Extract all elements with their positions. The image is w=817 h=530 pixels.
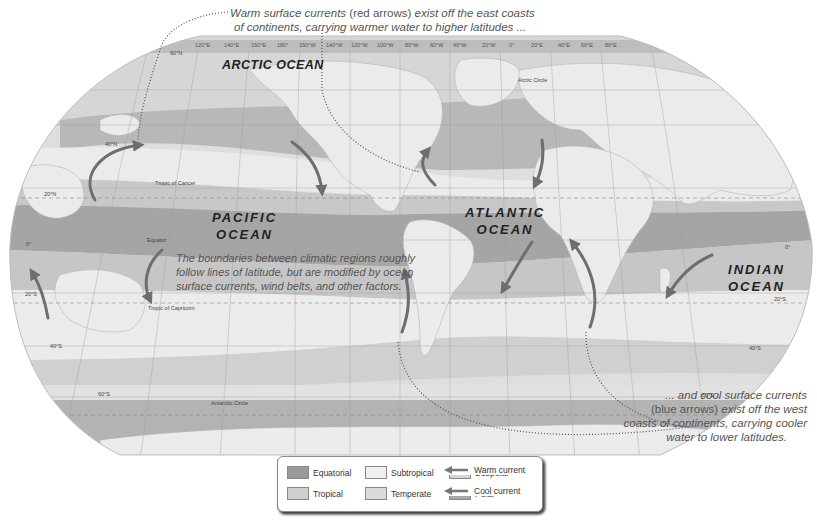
indian-ocean-label: INDIAN OCEAN: [728, 261, 785, 295]
lon-label: 60°E: [581, 42, 593, 48]
lon-label: 120°E: [195, 42, 210, 48]
lat-20s-left-label: 20°S: [25, 291, 37, 297]
note-line: follow lines of latitude, but are modifi…: [176, 265, 415, 279]
lon-label: 120°W: [351, 42, 368, 48]
callout-text: exist off the west: [721, 403, 807, 415]
lon-label: 140°W: [326, 42, 343, 48]
lon-label: 160°W: [299, 42, 316, 48]
legend-label: Cool current: [474, 486, 520, 496]
lon-label: 180°: [277, 42, 288, 48]
lon-label: 40°W: [453, 42, 467, 48]
callout-text: coasts of continents, carrying cooler: [624, 416, 807, 430]
lon-label: 100°W: [377, 42, 394, 48]
note-line: surface currents, wind belts, and other …: [176, 279, 415, 293]
legend-label: Warm current: [474, 465, 525, 475]
arctic-circle-label: Arctic Circle: [518, 77, 547, 83]
atlantic-ocean-label: ATLANTIC OCEAN: [465, 204, 545, 238]
legend-item-cool-current: Cool current: [444, 486, 524, 496]
ocean-label-line: INDIAN: [728, 261, 785, 278]
warm-current-arrow-icon: [444, 466, 468, 474]
lat-40s-right-label: 40°S: [749, 345, 761, 351]
lat-40s-left-label: 40°S: [50, 343, 62, 349]
cool-current-arrow-icon: [444, 487, 468, 495]
pacific-ocean-label: PACIFIC OCEAN: [212, 209, 277, 243]
callout-text: of continents, carrying warmer water to …: [230, 20, 535, 34]
lat-20n-label: 20°N: [44, 191, 56, 197]
lat-60s-right-label: 60°S: [702, 392, 714, 398]
ocean-label-line: OCEAN: [212, 226, 277, 243]
legend-item-warm-current: Warm current: [444, 465, 529, 475]
cool-currents-callout: ... and cool surface currents (blue arro…: [624, 388, 807, 444]
lon-label: 20°W: [482, 42, 496, 48]
climate-regions-map: Warm surface currents (red arrows) exist…: [0, 0, 817, 530]
ocean-label-line: OCEAN: [465, 221, 545, 238]
lon-label: 80°E: [605, 42, 617, 48]
lon-label: 160°E: [251, 42, 266, 48]
lon-label: 20°E: [531, 42, 543, 48]
lat-0-left-label: 0°: [26, 241, 31, 247]
callout-text: Warm surface currents: [230, 7, 346, 19]
equator-label: Equator: [147, 237, 166, 243]
tropic-of-capricorn-label: Tropic of Capricorn: [148, 305, 195, 311]
callout-text: exist off the east coasts: [415, 7, 535, 19]
note-line: The boundaries between climatic regions …: [176, 251, 415, 265]
lon-label: 80°W: [405, 42, 419, 48]
ocean-label-line: ATLANTIC: [465, 204, 545, 221]
arctic-ocean-label: ARCTIC OCEAN: [222, 57, 324, 74]
lat-60n-label: 60°N: [170, 50, 182, 56]
boundaries-note: The boundaries between climatic regions …: [176, 251, 415, 293]
lat-0-right-label: 0°: [785, 244, 790, 250]
lat-40n-label: 40°N: [105, 141, 117, 147]
lon-label: 140°E: [224, 42, 239, 48]
lon-label: 0°: [509, 42, 514, 48]
callout-text: ... and cool surface currents: [624, 388, 807, 402]
callout-text: water to lower latitudes.: [624, 430, 787, 444]
lat-20s-right-label: 20°S: [774, 296, 786, 302]
callout-text: (red arrows): [349, 7, 411, 19]
callout-text: (blue arrows): [651, 403, 718, 415]
ocean-label-line: PACIFIC: [212, 209, 277, 226]
lon-label: 60°W: [430, 42, 444, 48]
lon-label: 40°E: [558, 42, 570, 48]
tropic-of-cancer-label: Tropic of Cancer: [155, 180, 195, 186]
antarctic-circle-label: Antarctic Circle: [211, 400, 248, 406]
warm-currents-callout: Warm surface currents (red arrows) exist…: [230, 6, 535, 34]
lat-60s-left-label: 60°S: [98, 391, 110, 397]
ocean-label-line: OCEAN: [728, 278, 785, 295]
